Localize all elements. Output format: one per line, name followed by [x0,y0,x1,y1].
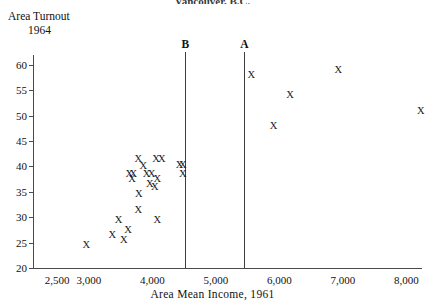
y-tick-label: 25 [5,237,27,248]
scatter-plot: Vancouver, B.C. Area Turnout 1964 202530… [0,0,425,307]
data-point: X [134,154,142,164]
x-tick-label: 5,000 [203,274,228,286]
data-point: X [124,225,132,235]
y-tick-label: 55 [5,85,27,96]
data-point: X [335,65,343,75]
chart-title: Vancouver, B.C. [0,0,425,4]
x-tick-label: 4,000 [140,274,165,286]
data-point: X [134,205,142,215]
data-point: X [108,230,116,240]
data-point: X [115,215,123,225]
y-tick-label: 45 [5,136,27,147]
y-tick-mark [29,268,33,269]
y-tick-label: 35 [5,186,27,197]
data-point: X [286,90,294,100]
y-tick-mark [29,217,33,218]
y-tick-mark [29,116,33,117]
x-tick-label: 2,500 [45,274,70,286]
data-point: X [248,70,256,80]
y-tick-mark [29,192,33,193]
data-point: X [135,189,143,199]
x-axis [33,268,422,269]
y-tick-label: 50 [5,110,27,121]
data-point: X [148,169,156,179]
data-point: X [120,235,128,245]
x-tick-label: 6,000 [267,274,292,286]
x-tick-label: 3,000 [76,274,101,286]
data-point: X [158,154,166,164]
y-axis-label-line2: 1964 [28,24,51,36]
y-tick-mark [29,65,33,66]
data-point: X [154,215,162,225]
y-tick-label: 30 [5,212,27,223]
y-tick-label: 40 [5,161,27,172]
y-tick-mark [29,166,33,167]
reference-line-label-a: A [240,38,248,50]
y-axis-label-line1: Area Turnout [8,10,70,22]
x-tick-label: 7,000 [330,274,355,286]
y-axis [33,55,34,268]
x-tick-label: 8,000 [394,274,419,286]
data-point: X [129,169,137,179]
y-tick-mark [29,90,33,91]
data-point: X [270,121,278,131]
data-point: X [82,240,90,250]
data-point: X [179,169,187,179]
reference-line-label-b: B [181,38,189,50]
reference-line-a [244,52,245,268]
data-point: X [417,106,425,116]
y-tick-label: 60 [5,59,27,70]
y-tick-mark [29,243,33,244]
x-axis-label: Area Mean Income, 1961 [0,288,425,300]
y-tick-label: 20 [5,263,27,274]
y-tick-mark [29,141,33,142]
